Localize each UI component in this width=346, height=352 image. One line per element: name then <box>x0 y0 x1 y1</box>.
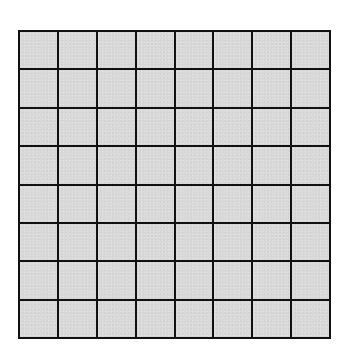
grid-cell-r4-c1 <box>20 147 57 183</box>
grid-cell-r3-c4 <box>137 109 174 145</box>
grid-cell-r6-c7 <box>253 224 290 260</box>
grid-cell-r7-c8 <box>292 262 329 298</box>
grid-cell-r6-c8 <box>292 224 329 260</box>
grid-cell-r4-c3 <box>98 147 135 183</box>
grid-8x8 <box>18 30 331 339</box>
grid-cell-r5-c1 <box>20 186 57 222</box>
grid-cell-r8-c5 <box>176 301 213 337</box>
grid-cell-r4-c6 <box>214 147 251 183</box>
grid-cell-r7-c7 <box>253 262 290 298</box>
grid-cell-r4-c2 <box>59 147 96 183</box>
grid-cell-r4-c7 <box>253 147 290 183</box>
grid-cell-r4-c5 <box>176 147 213 183</box>
grid-cell-r8-c8 <box>292 301 329 337</box>
grid-cell-r1-c4 <box>137 32 174 68</box>
grid-cell-r5-c4 <box>137 186 174 222</box>
grid-cell-r4-c4 <box>137 147 174 183</box>
grid-cell-r1-c8 <box>292 32 329 68</box>
grid-cell-r1-c7 <box>253 32 290 68</box>
grid-cell-r3-c3 <box>98 109 135 145</box>
grid-cell-r4-c8 <box>292 147 329 183</box>
grid-cell-r2-c6 <box>214 70 251 106</box>
grid-cell-r3-c8 <box>292 109 329 145</box>
grid-cell-r2-c2 <box>59 70 96 106</box>
grid-cell-r7-c4 <box>137 262 174 298</box>
grid-cell-r3-c7 <box>253 109 290 145</box>
grid-cell-r8-c6 <box>214 301 251 337</box>
grid-cell-r3-c6 <box>214 109 251 145</box>
grid-cell-r2-c4 <box>137 70 174 106</box>
grid-cell-r5-c8 <box>292 186 329 222</box>
grid-cell-r2-c3 <box>98 70 135 106</box>
grid-cell-r3-c5 <box>176 109 213 145</box>
grid-cell-r7-c3 <box>98 262 135 298</box>
grid-cell-r7-c6 <box>214 262 251 298</box>
grid-cell-r7-c2 <box>59 262 96 298</box>
grid-cell-r8-c2 <box>59 301 96 337</box>
grid-cell-r1-c6 <box>214 32 251 68</box>
grid-cell-r1-c3 <box>98 32 135 68</box>
grid-cell-r6-c4 <box>137 224 174 260</box>
grid-cell-r2-c5 <box>176 70 213 106</box>
grid-cell-r1-c2 <box>59 32 96 68</box>
grid-cell-r2-c8 <box>292 70 329 106</box>
grid-cell-r8-c7 <box>253 301 290 337</box>
canvas <box>0 0 346 352</box>
grid-cell-r5-c7 <box>253 186 290 222</box>
grid-cell-r3-c1 <box>20 109 57 145</box>
grid-cell-r6-c6 <box>214 224 251 260</box>
grid-cell-r2-c1 <box>20 70 57 106</box>
grid-cell-r5-c5 <box>176 186 213 222</box>
grid-cell-r5-c6 <box>214 186 251 222</box>
grid-cell-r6-c2 <box>59 224 96 260</box>
grid-cell-r8-c3 <box>98 301 135 337</box>
grid-cell-r2-c7 <box>253 70 290 106</box>
grid-cell-r8-c1 <box>20 301 57 337</box>
grid-cell-r1-c5 <box>176 32 213 68</box>
grid-cell-r3-c2 <box>59 109 96 145</box>
grid-cell-r5-c2 <box>59 186 96 222</box>
grid-cell-r7-c1 <box>20 262 57 298</box>
grid-cell-r7-c5 <box>176 262 213 298</box>
grid-cell-r5-c3 <box>98 186 135 222</box>
grid-cell-r6-c5 <box>176 224 213 260</box>
grid-cell-r1-c1 <box>20 32 57 68</box>
grid-cell-r8-c4 <box>137 301 174 337</box>
grid-cell-r6-c1 <box>20 224 57 260</box>
grid-cell-r6-c3 <box>98 224 135 260</box>
